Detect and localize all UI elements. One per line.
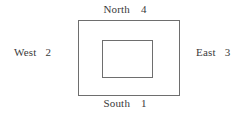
east-label-value: 3 xyxy=(225,46,231,59)
east-label: East3 xyxy=(196,46,230,59)
south-label-name: South xyxy=(103,97,130,109)
compass-rectangle-diagram: North4 West2 East3 South1 xyxy=(0,0,250,116)
inner-rectangle xyxy=(102,40,153,78)
north-label-name: North xyxy=(103,3,130,15)
east-label-name: East xyxy=(196,46,216,58)
north-label: North4 xyxy=(0,3,250,16)
south-label: South1 xyxy=(0,97,250,110)
west-label-value: 2 xyxy=(46,46,52,59)
north-label-value: 4 xyxy=(141,3,147,16)
west-label-name: West xyxy=(14,46,37,58)
west-label: West2 xyxy=(14,46,51,59)
south-label-value: 1 xyxy=(141,97,147,110)
